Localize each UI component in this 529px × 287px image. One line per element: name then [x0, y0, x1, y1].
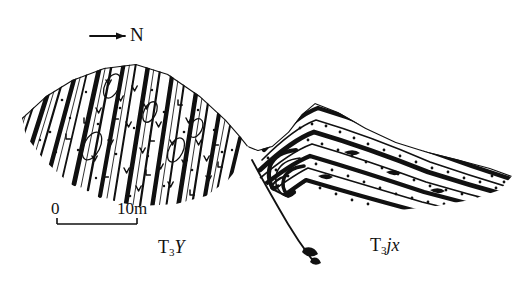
left-unit-body [4, 62, 248, 208]
right-unit-bedding [248, 103, 520, 230]
unit-label-right: T3jx [370, 236, 400, 254]
scale-bar [57, 218, 137, 224]
unit-left-prefix: T [158, 237, 169, 257]
unit-right-suffix: jx [387, 235, 400, 255]
scale-bar-end-label: 10m [117, 200, 147, 217]
unit-left-subscript: 3 [169, 246, 175, 258]
cross-section-drawing [0, 0, 529, 287]
right-unit-body [248, 103, 520, 230]
scale-bar-start-label: 0 [51, 200, 60, 217]
unit-right-subscript: 3 [381, 244, 387, 256]
unit-right-prefix: T [370, 235, 381, 255]
north-arrow-icon [90, 32, 125, 39]
north-label: N [130, 25, 144, 44]
unit-left-suffix: Y [175, 237, 185, 257]
unit-label-left: T3Y [158, 238, 185, 256]
geological-cross-section-figure: N 0 10m T3Y T3jx [0, 0, 529, 287]
